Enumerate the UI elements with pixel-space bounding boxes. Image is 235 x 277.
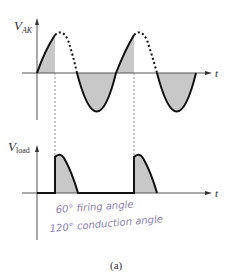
y-axis-arrow-icon bbox=[35, 18, 39, 25]
y-axis-arrow-icon bbox=[35, 145, 39, 152]
x-axis-label: t bbox=[215, 67, 219, 79]
y-axis-label: VAK bbox=[14, 18, 33, 35]
annotation-firing-angle: 60° firing angle bbox=[55, 199, 133, 215]
annotation-conduction-angle: 120° conduction angle bbox=[49, 213, 163, 234]
figure-caption: (a) bbox=[110, 259, 123, 272]
y-axis-label: Vload bbox=[8, 139, 30, 155]
top-graph: VAK t bbox=[14, 18, 219, 190]
x-axis-arrow-icon bbox=[205, 71, 212, 75]
thyristor-waveform-diagram: VAK t Vload t 60° firing angle 120° cond… bbox=[0, 0, 235, 277]
x-axis-arrow-icon bbox=[205, 191, 212, 195]
x-axis-label: t bbox=[215, 187, 219, 199]
